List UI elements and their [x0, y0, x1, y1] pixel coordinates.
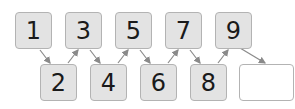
number-box-7: 7	[165, 12, 202, 49]
number-box-4: 4	[90, 64, 127, 101]
number-box-1: 1	[15, 12, 52, 49]
number-box-9: 9	[215, 12, 252, 49]
number-box-6: 6	[140, 64, 177, 101]
number-box-3: 3	[65, 12, 102, 49]
number-box-5: 5	[115, 12, 152, 49]
number-box-2: 2	[40, 64, 77, 101]
answer-box-empty[interactable]	[239, 64, 294, 101]
number-box-8: 8	[190, 64, 227, 101]
